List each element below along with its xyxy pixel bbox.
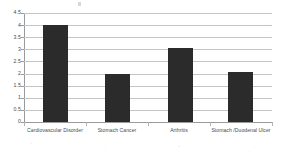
y-axis-tick: [21, 37, 24, 38]
y-axis-tick-label: 4.5: [5, 10, 21, 15]
bar: [168, 48, 193, 122]
x-axis-separator-tick: [148, 122, 149, 126]
y-axis-tick-label: 0.5: [5, 107, 21, 112]
x-axis-separator-tick: [210, 122, 211, 126]
x-axis-separator-tick: [86, 122, 87, 126]
bar: [228, 72, 253, 122]
bar: [105, 74, 130, 122]
y-axis-tick: [21, 25, 24, 26]
y-axis-tick-label: 2: [5, 71, 21, 76]
bar-chart: 00.511.522.533.544.5 Cardiovascular Diso…: [0, 0, 284, 156]
y-axis-tick-label: 3: [5, 47, 21, 52]
x-axis-category-label: Stomach /Duodenal Ulcer: [210, 127, 272, 133]
x-axis-category-label: Arthritis: [148, 127, 210, 133]
x-axis-category-label: Cardiovascular Disorder: [24, 127, 86, 133]
y-axis-tick-label: 1: [5, 95, 21, 100]
gridline: [24, 13, 272, 14]
scan-artifact-mark: [78, 2, 81, 6]
x-axis-separator-tick: [24, 122, 25, 126]
y-axis-tick: [21, 74, 24, 75]
y-axis-tick-label: 1.5: [5, 83, 21, 88]
bar: [43, 25, 68, 122]
y-axis-tick: [21, 49, 24, 50]
y-axis-tick: [21, 13, 24, 14]
y-axis-tick: [21, 61, 24, 62]
x-axis-category-label: Stomach Cancer: [86, 127, 148, 133]
y-axis-tick-label: 4: [5, 23, 21, 28]
x-axis-separator-tick: [272, 122, 273, 126]
y-axis-tick-label: 3.5: [5, 35, 21, 40]
y-axis-tick-labels: 00.511.522.533.544.5: [0, 0, 21, 124]
y-axis-tick: [21, 86, 24, 87]
y-axis-tick-label: 0: [5, 119, 21, 124]
y-axis-tick-label: 2.5: [5, 59, 21, 64]
y-axis-tick: [21, 110, 24, 111]
y-axis-tick: [21, 98, 24, 99]
plot-area: [24, 13, 272, 122]
